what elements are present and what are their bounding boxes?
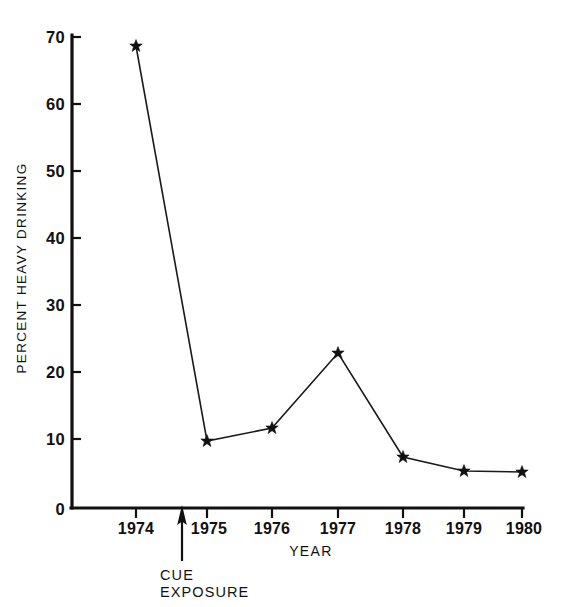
x-tick-label-1975: 1975 [191,520,227,537]
cue-exposure-label-line1: CUE [160,567,194,583]
x-tick-label-1979: 1979 [446,520,482,537]
chart-figure: 70 60 50 40 30 20 10 0 PERCENT HEAVY DRI… [0,0,565,607]
x-tick-label-1978: 1978 [385,520,421,537]
cue-exposure-label-line2: EXPOSURE [160,584,249,600]
y-axis-title: PERCENT HEAVY DRINKING [14,163,29,374]
x-tick-label-1977: 1977 [320,520,356,537]
line-chart-svg: 70 60 50 40 30 20 10 0 PERCENT HEAVY DRI… [0,0,565,607]
y-tick-label-30: 30 [46,296,65,314]
x-axis-title: YEAR [289,543,333,559]
y-tick-label-40: 40 [46,229,65,247]
y-tick-label-0: 0 [56,500,65,518]
x-tick-label-1976: 1976 [254,520,290,537]
x-tick-label-1974: 1974 [118,520,154,537]
y-tick-label-70: 70 [46,28,65,46]
x-tick-label-1980: 1980 [506,520,542,537]
y-tick-label-10: 10 [46,430,65,448]
y-tick-label-50: 50 [46,162,65,180]
chart-background [0,0,565,607]
y-tick-label-60: 60 [46,95,65,113]
y-tick-label-20: 20 [46,363,65,381]
